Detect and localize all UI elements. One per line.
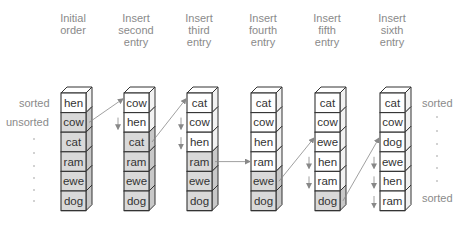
cell-label: cow <box>189 116 210 128</box>
cell-label: ewe <box>317 136 338 148</box>
cell-label: dog <box>190 195 209 207</box>
cell-label: dog <box>318 195 337 207</box>
cell-label: cat <box>192 97 208 109</box>
cell-label: cow <box>382 116 403 128</box>
stack-column-2: cowhencatramewedog <box>124 87 155 211</box>
cell-label: dog <box>254 195 273 207</box>
cell-label: cat <box>129 136 145 148</box>
cell-label: cat <box>320 97 336 109</box>
stack-column-5: catcowewehenramdog <box>315 87 346 211</box>
stack-column-4: catcowhenramewedog <box>251 87 282 211</box>
cell-label: ram <box>127 156 147 168</box>
stack-column-6: catcowdogewehenram <box>380 87 411 211</box>
cell-label: dog <box>127 195 146 207</box>
cell-label: cow <box>253 116 274 128</box>
cell-label: hen <box>64 97 83 109</box>
cell-label: ram <box>383 195 403 207</box>
cell-label: cat <box>256 97 272 109</box>
cell-label: ewe <box>382 156 403 168</box>
left-dots <box>33 138 35 202</box>
cell-label: dog <box>383 136 402 148</box>
cell-label: ewe <box>126 175 147 187</box>
cell-label: hen <box>254 136 273 148</box>
cell-label: hen <box>318 156 337 168</box>
cell-label: ram <box>318 175 338 187</box>
cell-label: cat <box>66 136 82 148</box>
cell-label: cow <box>63 116 84 128</box>
cell-label: ram <box>64 156 84 168</box>
cell-label: ewe <box>63 175 84 187</box>
cell-label: ram <box>190 156 210 168</box>
stack-column-1: hencowcatramewedog <box>61 87 92 211</box>
cell-label: cow <box>126 97 147 109</box>
cell-label: cat <box>385 97 401 109</box>
right-dots <box>436 116 438 182</box>
cell-label: hen <box>383 175 402 187</box>
stack-column-3: catcowhenramewedog <box>187 87 218 211</box>
cell-label: dog <box>64 195 83 207</box>
cell-label: hen <box>190 136 209 148</box>
cell-label: hen <box>127 116 146 128</box>
insertion-sort-diagram: hencowcatramewedogcowhencatramewedogcatc… <box>0 0 467 228</box>
cell-label: ram <box>254 156 274 168</box>
cell-label: ewe <box>253 175 274 187</box>
cell-label: cow <box>317 116 338 128</box>
cell-label: ewe <box>189 175 210 187</box>
insert-arrow-5 <box>343 138 379 201</box>
